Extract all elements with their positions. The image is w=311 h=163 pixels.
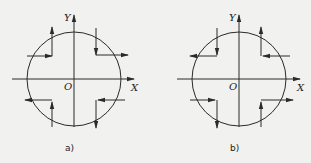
path-b-top-left <box>190 28 217 56</box>
diagram-canvas <box>0 0 311 163</box>
path-b-top-right <box>261 27 290 56</box>
origin-label-b: O <box>229 82 237 92</box>
path-b-bottom-left <box>190 100 217 128</box>
path-a-bottom-right <box>96 100 125 128</box>
origin-label-a: O <box>64 82 72 92</box>
path-a-top-left <box>27 27 52 56</box>
path-a-bottom-left <box>25 100 52 127</box>
caption-b: b) <box>230 144 239 153</box>
caption-a: a) <box>65 144 74 153</box>
x-axis-label-a: X <box>131 83 138 93</box>
y-axis-label-b: Y <box>229 13 236 23</box>
y-axis-label-a: Y <box>64 13 71 23</box>
x-axis-label-b: X <box>297 83 304 93</box>
panel-b <box>177 15 300 128</box>
path-b-bottom-right <box>261 100 293 127</box>
quadrant-diagram-figure: Y X O a) Y X O b) <box>0 0 311 163</box>
panel-a <box>12 15 134 128</box>
